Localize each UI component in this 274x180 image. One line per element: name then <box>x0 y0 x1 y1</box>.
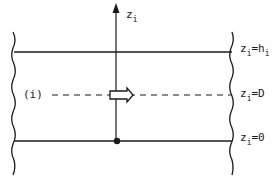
axis-label: zi <box>126 9 137 20</box>
left-wavy-boundary <box>12 32 16 175</box>
right-wavy-boundary <box>230 32 234 175</box>
level-top-sub: i <box>247 49 252 58</box>
axis-arrowhead-icon <box>113 3 120 13</box>
level-label-middle: zi=D <box>240 88 265 99</box>
level-middle-main: z <box>240 87 247 100</box>
level-middle-sub: i <box>247 94 252 103</box>
axis-label-main: z <box>126 8 133 21</box>
origin-dot <box>114 138 120 144</box>
level-middle-eq: =D <box>251 87 264 100</box>
axis-label-sub: i <box>133 15 138 24</box>
layer-label: (i) <box>23 89 43 100</box>
hollow-arrow-icon <box>110 88 133 102</box>
level-label-top: zi=hi <box>240 43 270 54</box>
level-bottom-sub: i <box>247 138 252 147</box>
level-top-eq: =h <box>251 42 264 55</box>
level-top-eq-sub: i <box>265 49 270 58</box>
level-label-bottom: zi=0 <box>240 132 265 143</box>
level-top-main: z <box>240 42 247 55</box>
level-bottom-main: z <box>240 131 247 144</box>
level-bottom-eq: =0 <box>251 131 264 144</box>
